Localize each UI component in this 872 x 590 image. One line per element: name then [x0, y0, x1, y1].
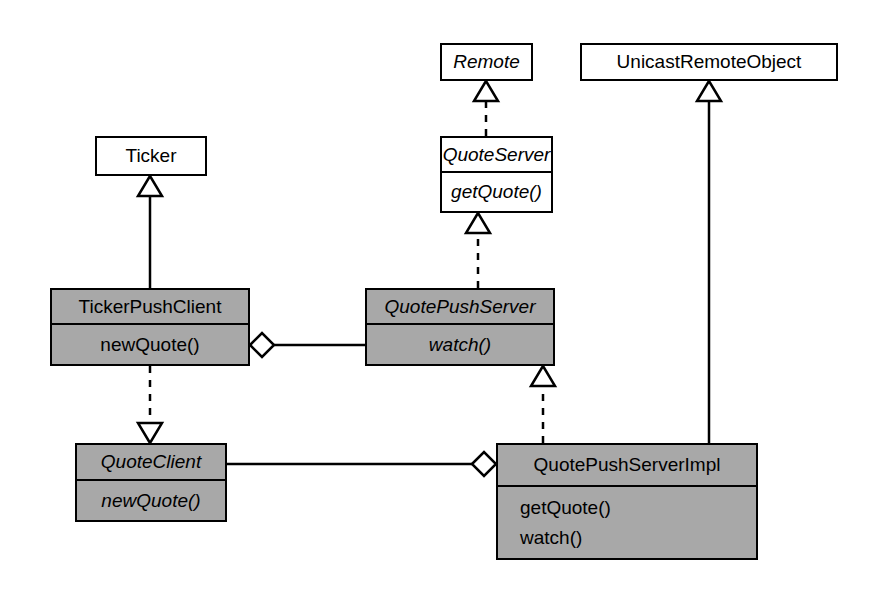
class-box-ticker[interactable]: Ticker	[95, 136, 207, 176]
class-members-compartment: newQuote()	[52, 323, 248, 364]
edge-tickerpushclient-realizes-quoteclient	[138, 366, 162, 443]
class-box-quote-push-server-impl[interactable]: QuotePushServerImpl getQuote() watch()	[496, 443, 758, 560]
class-box-remote[interactable]: Remote	[440, 43, 533, 81]
class-name-compartment: QuoteServer	[442, 138, 551, 171]
class-box-unicast-remote-object[interactable]: UnicastRemoteObject	[580, 43, 838, 81]
edge-quoteserver-realizes-remote	[474, 81, 498, 136]
uml-class-diagram-canvas: Remote UnicastRemoteObject Ticker QuoteS…	[0, 0, 872, 590]
edge-quotepushserverimpl-extends-unicastremoteobject	[697, 81, 721, 443]
class-box-quote-server[interactable]: QuoteServer getQuote()	[440, 136, 553, 213]
class-member-row: watch()	[520, 523, 582, 552]
class-name-compartment: QuotePushServer	[367, 290, 553, 323]
edge-tickerpushclient-aggregates-quotepushserver	[250, 333, 365, 357]
class-name-compartment: QuoteClient	[77, 445, 225, 479]
class-name-label: QuotePushServer	[384, 295, 535, 319]
class-name-label: QuoteClient	[101, 450, 201, 474]
class-members-compartment: getQuote() watch()	[498, 485, 756, 558]
class-member-row: watch()	[429, 330, 491, 359]
class-members-compartment: watch()	[367, 323, 553, 364]
class-box-quote-push-server[interactable]: QuotePushServer watch()	[365, 288, 555, 366]
class-member-row: newQuote()	[100, 330, 199, 359]
class-name-compartment: Remote	[442, 45, 531, 79]
class-members-compartment: getQuote()	[442, 171, 551, 211]
class-member-row: newQuote()	[101, 486, 200, 515]
class-name-label: QuoteServer	[443, 143, 551, 167]
class-name-label: Remote	[453, 50, 520, 74]
class-name-compartment: Ticker	[97, 138, 205, 174]
edge-quotepushserver-realizes-quoteserver	[466, 213, 490, 288]
edge-tickerpushclient-extends-ticker	[138, 176, 162, 288]
class-box-quote-client[interactable]: QuoteClient newQuote()	[75, 443, 227, 522]
class-name-compartment: QuotePushServerImpl	[498, 445, 756, 485]
class-name-compartment: UnicastRemoteObject	[582, 45, 836, 79]
class-members-compartment: newQuote()	[77, 479, 225, 520]
class-name-compartment: TickerPushClient	[52, 290, 248, 323]
class-name-label: UnicastRemoteObject	[617, 50, 802, 74]
class-name-label: QuotePushServerImpl	[534, 453, 721, 477]
class-member-row: getQuote()	[520, 493, 611, 522]
class-box-ticker-push-client[interactable]: TickerPushClient newQuote()	[50, 288, 250, 366]
class-member-row: getQuote()	[451, 177, 542, 206]
class-name-label: TickerPushClient	[79, 295, 222, 319]
class-name-label: Ticker	[125, 144, 176, 168]
edge-quotepushserverimpl-realizes-quotepushserver	[531, 366, 555, 443]
edge-quotepushserverimpl-aggregates-quoteclient	[227, 452, 496, 476]
